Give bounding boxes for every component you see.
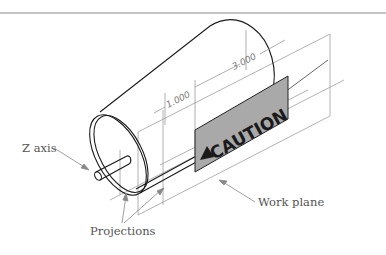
label-z-axis: Z axis [22,141,57,155]
label-projections: Projections [90,224,156,238]
label-work-plane: Work plane [258,195,324,209]
dimension-3000: 3.000 [230,51,258,72]
caution-sign: CAUTION [195,76,291,172]
isometric-diagram: 1.000 3.000 CAUTION Z axis Projections W… [0,0,386,255]
